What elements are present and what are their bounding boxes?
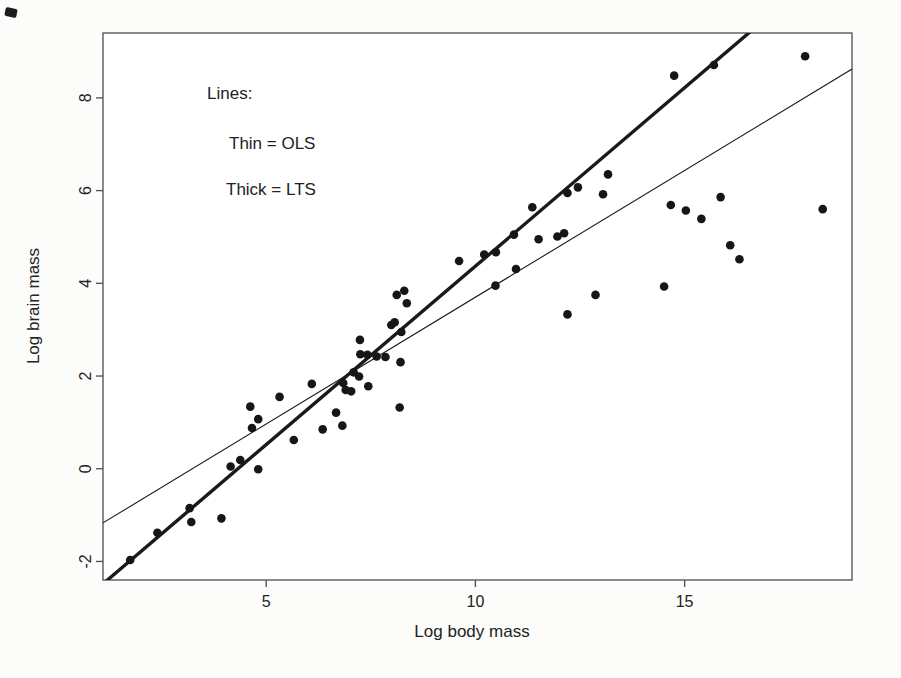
data-point: [510, 230, 519, 239]
data-point: [392, 291, 401, 300]
data-point: [716, 193, 725, 202]
data-point: [400, 286, 409, 295]
data-point: [697, 215, 706, 224]
data-point: [372, 352, 381, 361]
data-point: [355, 372, 364, 381]
data-point: [670, 71, 679, 80]
data-point: [347, 387, 356, 396]
data-point: [332, 408, 341, 417]
data-point: [818, 205, 827, 214]
data-point: [390, 318, 399, 327]
data-point: [185, 504, 194, 513]
data-point: [187, 518, 196, 527]
data-point: [395, 403, 404, 412]
data-point: [512, 265, 521, 274]
data-point: [290, 436, 299, 445]
y-tick-label: 6: [77, 186, 94, 195]
data-point: [801, 52, 810, 61]
y-tick-label: 8: [77, 93, 94, 102]
data-point: [307, 380, 316, 389]
data-point: [153, 528, 162, 537]
data-point: [492, 248, 501, 257]
y-tick-label: 0: [77, 464, 94, 473]
legend-title: Lines:: [207, 84, 252, 103]
data-point: [396, 358, 405, 367]
data-point: [356, 336, 365, 345]
data-point: [254, 465, 263, 474]
y-tick-label: -2: [77, 554, 94, 568]
data-point: [480, 250, 489, 259]
data-point: [560, 229, 569, 238]
data-point: [563, 189, 572, 198]
data-point: [710, 61, 719, 70]
thick-line-label: Thick = LTS: [226, 180, 316, 199]
data-point: [402, 299, 411, 308]
data-point: [667, 201, 676, 210]
data-point: [246, 402, 255, 411]
data-point: [126, 556, 135, 565]
x-tick-label: 5: [262, 593, 271, 610]
data-point: [397, 328, 406, 337]
plot-box: [103, 33, 852, 580]
data-point: [226, 462, 235, 471]
scatter-plot: 51015-202468 Lines: Thin = OLS Thick = L…: [0, 0, 901, 678]
data-point: [528, 203, 537, 212]
data-point: [254, 415, 263, 424]
data-point: [364, 382, 373, 391]
data-point: [591, 291, 600, 300]
data-point: [491, 281, 500, 290]
data-point: [248, 424, 257, 433]
data-point: [217, 514, 226, 523]
data-point: [455, 257, 464, 266]
data-point: [363, 350, 372, 359]
data-point: [574, 183, 583, 192]
data-point: [660, 282, 669, 291]
y-tick-label: 2: [77, 371, 94, 380]
data-point: [318, 425, 327, 434]
y-axis-title: Log brain mass: [24, 248, 43, 364]
data-point: [338, 421, 347, 430]
x-tick-label: 10: [467, 593, 485, 610]
x-tick-label: 15: [676, 593, 694, 610]
data-point: [534, 235, 543, 244]
x-axis-title: Log body mass: [414, 622, 529, 641]
y-tick-label: 4: [77, 279, 94, 288]
scanned-figure-page: 51015-202468 Lines: Thin = OLS Thick = L…: [0, 0, 901, 678]
data-point: [275, 393, 284, 402]
data-point: [236, 456, 245, 465]
data-point: [682, 206, 691, 215]
data-point: [599, 190, 608, 199]
data-point: [604, 170, 613, 179]
data-point: [726, 241, 735, 250]
data-point: [381, 353, 390, 362]
data-point: [563, 310, 572, 319]
data-point: [735, 255, 744, 264]
thin-line-label: Thin = OLS: [229, 134, 315, 153]
